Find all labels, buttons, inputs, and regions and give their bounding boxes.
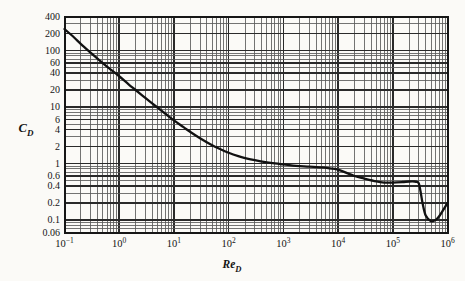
y-tick-label: 1 <box>55 158 60 169</box>
y-tick-label: 4 <box>55 124 60 135</box>
chart-figure: 10−1100101102103104105106 40020010060402… <box>0 0 465 281</box>
y-tick-label: 0.2 <box>48 197 61 208</box>
y-tick-label: 100 <box>45 45 60 56</box>
y-tick-label: 0.06 <box>43 227 61 238</box>
y-tick-label: 0.1 <box>48 214 61 225</box>
y-tick-label: 2 <box>55 141 60 152</box>
chart-svg: 10−1100101102103104105106 40020010060402… <box>0 0 465 281</box>
y-tick-label: 0.4 <box>48 180 61 191</box>
y-tick-label: 10 <box>50 101 60 112</box>
y-tick-label: 400 <box>45 11 60 22</box>
y-tick-label: 40 <box>50 67 60 78</box>
y-tick-label: 200 <box>45 28 60 39</box>
y-tick-label: 20 <box>50 84 60 95</box>
